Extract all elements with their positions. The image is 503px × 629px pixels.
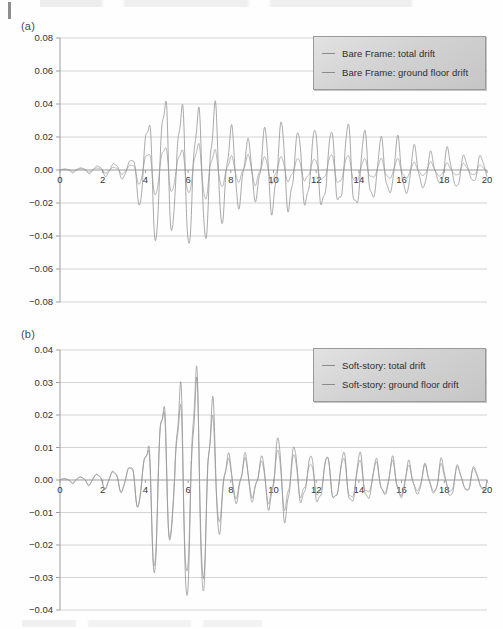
y-axis-tick-label: 0.03	[35, 377, 54, 388]
y-axis-tick-label: 0.02	[35, 131, 54, 142]
legend-line-swatch-icon	[322, 365, 335, 366]
y-axis-tick-label: −0.02	[29, 197, 53, 208]
legend-line-swatch-icon	[322, 384, 335, 385]
y-axis-tick-label: 0.04	[35, 98, 54, 109]
y-axis-tick-label: −0.02	[29, 539, 53, 550]
legend-panel-b[interactable]: Soft-story: total drift Soft-story: grou…	[313, 348, 486, 402]
legend-line-swatch-icon	[322, 72, 335, 73]
x-axis-tick-label: 8	[228, 174, 233, 185]
figure-page: (a) −0.08−0.06−0.04−0.020.000.020.040.06…	[0, 0, 503, 629]
legend-item-label: Bare Frame: total drift	[342, 48, 435, 59]
y-axis-tick-label: 0.00	[35, 474, 54, 485]
y-axis-tick-label: 0.08	[35, 32, 54, 43]
y-axis-tick-label: −0.06	[29, 263, 53, 274]
legend-item[interactable]: Bare Frame: total drift	[322, 45, 475, 63]
legend-item-label: Soft-story: total drift	[342, 360, 426, 371]
y-axis-tick-label: 0.00	[35, 164, 54, 175]
legend-line-swatch-icon	[322, 53, 335, 54]
y-axis-tick-label: −0.08	[29, 296, 53, 307]
y-axis-tick-label: −0.03	[29, 572, 53, 583]
y-axis-tick-label: 0.06	[35, 65, 54, 76]
x-axis-tick-label: 4	[143, 174, 148, 185]
x-axis-tick-label: 0	[57, 484, 62, 495]
y-axis-tick-label: −0.04	[29, 230, 53, 241]
legend-item[interactable]: Bare Frame: ground floor drift	[322, 64, 475, 82]
series-line-1	[60, 377, 487, 595]
chart-panel-b: (b) −0.04−0.03−0.02−0.010.000.010.020.03…	[0, 320, 503, 629]
y-axis-tick-label: −0.01	[29, 507, 53, 518]
legend-panel-a[interactable]: Bare Frame: total drift Bare Frame: grou…	[313, 36, 486, 90]
x-axis-tick-label: 20	[482, 484, 493, 495]
y-axis-tick-label: −0.04	[29, 604, 53, 615]
x-axis-tick-label: 12	[311, 174, 322, 185]
legend-item-label: Bare Frame: ground floor drift	[342, 67, 468, 78]
y-axis-tick-label: 0.04	[35, 344, 54, 355]
legend-item-label: Soft-story: ground floor drift	[342, 379, 459, 390]
y-axis-tick-label: 0.01	[35, 442, 54, 453]
legend-item[interactable]: Soft-story: ground floor drift	[322, 376, 475, 394]
chart-panel-a: (a) −0.08−0.06−0.04−0.020.000.020.040.06…	[0, 0, 503, 320]
x-axis-tick-label: 8	[228, 484, 233, 495]
x-axis-tick-label: 6	[185, 484, 190, 495]
x-axis-tick-label: 0	[57, 174, 62, 185]
y-axis-tick-label: 0.02	[35, 409, 54, 420]
legend-item[interactable]: Soft-story: total drift	[322, 357, 475, 375]
x-axis-tick-label: 4	[143, 484, 148, 495]
